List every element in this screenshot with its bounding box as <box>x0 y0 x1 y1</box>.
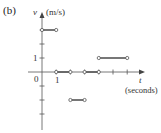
step-segment <box>55 70 72 73</box>
y-axis-arrow-icon <box>40 12 45 18</box>
step-segment <box>69 98 86 101</box>
x-tick-label-0: 0 <box>34 74 39 84</box>
open-endpoint-icon <box>126 56 129 59</box>
x-axis-symbol: t <box>139 75 142 85</box>
open-endpoint-icon <box>69 98 72 101</box>
x-tick-label-1: 1 <box>55 75 60 85</box>
open-endpoint-icon <box>97 70 100 73</box>
open-endpoint-icon <box>97 56 100 59</box>
open-endpoint-icon <box>40 28 43 31</box>
step-segment <box>97 56 129 59</box>
open-endpoint-icon <box>83 98 86 101</box>
y-axis-symbol: v <box>33 7 37 17</box>
step-segment <box>40 28 57 31</box>
x-axis-unit: (seconds) <box>125 85 158 95</box>
open-endpoint-icon <box>55 28 58 31</box>
y-tick-label-1: 1 <box>33 53 38 63</box>
open-endpoint-icon <box>83 70 86 73</box>
y-axis-unit: (m/s) <box>46 7 65 17</box>
step-segment <box>83 70 100 73</box>
x-axis-arrow-icon <box>139 70 145 75</box>
step-segments <box>40 28 128 101</box>
velocity-time-chart: v (m/s) t (seconds) 0 1 1 <box>0 0 161 133</box>
open-endpoint-icon <box>55 70 58 73</box>
open-endpoint-icon <box>69 70 72 73</box>
